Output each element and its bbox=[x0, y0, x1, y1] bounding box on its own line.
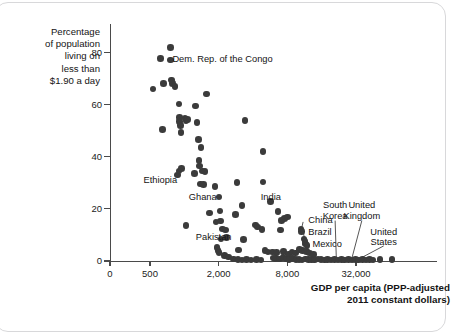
data-point bbox=[195, 136, 202, 143]
data-point bbox=[232, 211, 239, 218]
data-point bbox=[172, 83, 179, 90]
x-axis-title-line: 2011 constant dollars) bbox=[245, 294, 450, 306]
annotation-dem-rep-of-the-congo: Dem. Rep. of the Congo bbox=[172, 54, 272, 65]
data-point bbox=[370, 257, 377, 264]
data-point bbox=[277, 227, 284, 234]
data-point bbox=[298, 228, 305, 235]
x-tick-label-8,000: 8,000 bbox=[275, 268, 299, 279]
data-point bbox=[200, 181, 207, 188]
x-tick-0 bbox=[109, 261, 110, 266]
x-tick-label-32,000: 32,000 bbox=[341, 268, 370, 279]
data-point bbox=[239, 202, 246, 209]
y-tick-60 bbox=[104, 104, 110, 105]
annotation-ethiopia: Ethiopia bbox=[127, 175, 177, 186]
x-axis-title: GDP per capita (PPP-adjusted2011 constan… bbox=[245, 282, 450, 305]
y-tick-40 bbox=[104, 156, 110, 157]
annotation-brazil: Brazil bbox=[308, 227, 331, 238]
data-point bbox=[198, 144, 205, 151]
annotation-line: Dem. Rep. of the Congo bbox=[172, 54, 272, 65]
data-point bbox=[150, 86, 157, 93]
y-axis-title-line: less than bbox=[8, 63, 100, 75]
x-axis-title-line: GDP per capita (PPP-adjusted bbox=[245, 282, 450, 294]
data-point bbox=[176, 101, 183, 108]
data-point bbox=[217, 208, 224, 215]
y-tick-label-60: 60 bbox=[76, 100, 102, 110]
data-point bbox=[217, 218, 224, 225]
annotation-line: Pakistan bbox=[182, 232, 232, 243]
data-point bbox=[192, 103, 199, 110]
y-tick-label-40: 40 bbox=[76, 152, 102, 162]
annotation-mexico: Mexico bbox=[312, 239, 341, 250]
y-tick-80 bbox=[104, 52, 110, 53]
data-point bbox=[234, 179, 241, 186]
data-point bbox=[242, 117, 249, 124]
y-axis-title-line: Percentage bbox=[8, 26, 100, 38]
annotation-united-states: UnitedStates bbox=[360, 227, 408, 248]
y-tick-20 bbox=[104, 208, 110, 209]
data-point bbox=[206, 210, 213, 217]
data-point bbox=[160, 80, 167, 87]
annotation-ghana: Ghana bbox=[167, 192, 217, 203]
data-point bbox=[191, 170, 198, 177]
data-point bbox=[258, 257, 265, 264]
annotation-pakistan: Pakistan bbox=[182, 232, 232, 243]
data-point bbox=[389, 256, 396, 263]
annotation-united-kingdom: UnitedKingdom bbox=[338, 200, 386, 221]
data-point bbox=[260, 179, 267, 186]
x-tick-2,000 bbox=[218, 261, 219, 266]
data-point bbox=[275, 208, 282, 215]
data-point bbox=[278, 217, 285, 224]
annotation-line: India bbox=[261, 192, 281, 203]
x-tick-label-500: 500 bbox=[142, 268, 158, 279]
data-point bbox=[178, 129, 185, 136]
y-tick-label-80: 80 bbox=[76, 48, 102, 58]
data-point bbox=[259, 226, 266, 233]
annotation-line: Ghana bbox=[167, 192, 217, 203]
y-tick-label-0: 0 bbox=[76, 256, 102, 266]
data-point bbox=[183, 222, 190, 229]
annotation-line: United bbox=[360, 227, 408, 238]
x-tick-label-2,000: 2,000 bbox=[207, 268, 231, 279]
annotation-line: States bbox=[360, 237, 408, 248]
data-point bbox=[212, 183, 219, 190]
y-tick-label-20: 20 bbox=[76, 204, 102, 214]
data-point bbox=[178, 165, 185, 172]
data-point bbox=[167, 44, 174, 51]
data-point bbox=[194, 119, 201, 126]
data-point bbox=[157, 55, 164, 62]
data-point bbox=[240, 236, 247, 243]
data-point bbox=[184, 116, 191, 123]
annotation-line: Mexico bbox=[312, 239, 341, 250]
data-point bbox=[203, 91, 210, 98]
y-axis-title-line: $1.90 a day bbox=[8, 75, 100, 87]
data-point bbox=[260, 148, 267, 155]
x-tick-500 bbox=[149, 261, 150, 266]
annotation-line: Brazil bbox=[308, 227, 331, 238]
annotation-line: United bbox=[338, 200, 386, 211]
annotation-india: India bbox=[261, 192, 281, 203]
x-tick-label-0: 0 bbox=[107, 268, 112, 279]
data-point bbox=[235, 247, 242, 254]
data-point bbox=[159, 126, 166, 133]
annotation-line: Kingdom bbox=[338, 211, 386, 222]
annotation-line: Ethiopia bbox=[127, 175, 177, 186]
data-point bbox=[202, 168, 209, 175]
y-axis-line bbox=[110, 24, 111, 262]
